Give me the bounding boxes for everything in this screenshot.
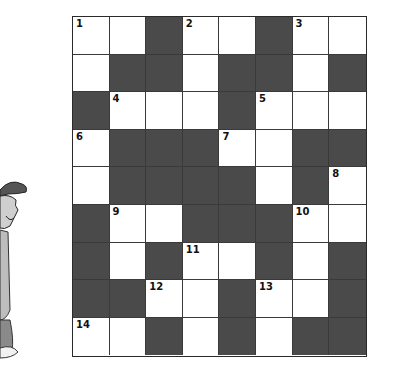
answer-cell[interactable] — [110, 17, 147, 55]
clue-number: 6 — [76, 131, 83, 143]
blocked-cell — [293, 130, 330, 168]
blocked-cell — [146, 55, 183, 93]
blocked-cell — [73, 280, 110, 318]
answer-cell[interactable]: 10 — [293, 205, 330, 243]
blocked-cell — [146, 318, 183, 356]
answer-cell[interactable] — [293, 92, 330, 130]
answer-cell[interactable]: 4 — [110, 92, 147, 130]
blocked-cell — [256, 17, 293, 55]
blocked-cell — [329, 55, 366, 93]
blocked-cell — [329, 318, 366, 356]
answer-cell[interactable] — [256, 130, 293, 168]
blocked-cell — [256, 243, 293, 281]
clue-number: 5 — [259, 93, 266, 105]
blocked-cell — [219, 92, 256, 130]
blocked-cell — [146, 167, 183, 205]
blocked-cell — [329, 243, 366, 281]
clue-number: 2 — [186, 18, 193, 30]
answer-cell[interactable] — [329, 92, 366, 130]
answer-cell[interactable] — [329, 17, 366, 55]
blocked-cell — [219, 318, 256, 356]
answer-cell[interactable]: 14 — [73, 318, 110, 356]
blocked-cell — [219, 167, 256, 205]
answer-cell[interactable] — [73, 55, 110, 93]
answer-cell[interactable]: 3 — [293, 17, 330, 55]
blocked-cell — [110, 130, 147, 168]
answer-cell[interactable] — [146, 92, 183, 130]
answer-cell[interactable]: 12 — [146, 280, 183, 318]
blocked-cell — [73, 205, 110, 243]
answer-cell[interactable]: 2 — [183, 17, 220, 55]
answer-cell[interactable]: 6 — [73, 130, 110, 168]
blocked-cell — [329, 280, 366, 318]
blocked-cell — [73, 92, 110, 130]
clue-number: 8 — [332, 168, 339, 180]
answer-cell[interactable] — [293, 280, 330, 318]
answer-cell[interactable] — [219, 243, 256, 281]
blocked-cell — [183, 167, 220, 205]
clue-number: 9 — [113, 206, 120, 218]
clue-number: 4 — [113, 93, 120, 105]
answer-cell[interactable]: 11 — [183, 243, 220, 281]
blocked-cell — [219, 280, 256, 318]
blocked-cell — [110, 280, 147, 318]
clue-number: 11 — [186, 244, 200, 256]
clue-number: 3 — [296, 18, 303, 30]
blocked-cell — [293, 167, 330, 205]
blocked-cell — [110, 55, 147, 93]
answer-cell[interactable] — [256, 318, 293, 356]
blocked-cell — [146, 243, 183, 281]
answer-cell[interactable] — [256, 167, 293, 205]
answer-cell[interactable] — [183, 318, 220, 356]
answer-cell[interactable] — [293, 243, 330, 281]
boy-illustration — [0, 170, 32, 360]
answer-cell[interactable] — [73, 167, 110, 205]
answer-cell[interactable]: 1 — [73, 17, 110, 55]
blocked-cell — [256, 205, 293, 243]
blocked-cell — [73, 243, 110, 281]
blocked-cell — [219, 205, 256, 243]
answer-cell[interactable] — [293, 55, 330, 93]
blocked-cell — [183, 205, 220, 243]
clue-number: 14 — [76, 319, 90, 331]
clue-number: 10 — [296, 206, 310, 218]
answer-cell[interactable]: 5 — [256, 92, 293, 130]
answer-cell[interactable]: 9 — [110, 205, 147, 243]
clue-number: 12 — [149, 281, 163, 293]
crossword-grid: 1234567891011121314 — [72, 16, 367, 357]
blocked-cell — [146, 130, 183, 168]
answer-cell[interactable] — [183, 92, 220, 130]
answer-cell[interactable]: 13 — [256, 280, 293, 318]
blocked-cell — [110, 167, 147, 205]
answer-cell[interactable] — [110, 318, 147, 356]
answer-cell[interactable] — [146, 205, 183, 243]
blocked-cell — [146, 17, 183, 55]
blocked-cell — [293, 318, 330, 356]
answer-cell[interactable] — [183, 280, 220, 318]
clue-number: 7 — [222, 131, 229, 143]
answer-cell[interactable] — [219, 17, 256, 55]
answer-cell[interactable] — [110, 243, 147, 281]
answer-cell[interactable] — [183, 55, 220, 93]
blocked-cell — [256, 55, 293, 93]
blocked-cell — [183, 130, 220, 168]
answer-cell[interactable] — [329, 205, 366, 243]
answer-cell[interactable]: 7 — [219, 130, 256, 168]
clue-number: 13 — [259, 281, 273, 293]
answer-cell[interactable]: 8 — [329, 167, 366, 205]
clue-number: 1 — [76, 18, 83, 30]
blocked-cell — [329, 130, 366, 168]
blocked-cell — [219, 55, 256, 93]
